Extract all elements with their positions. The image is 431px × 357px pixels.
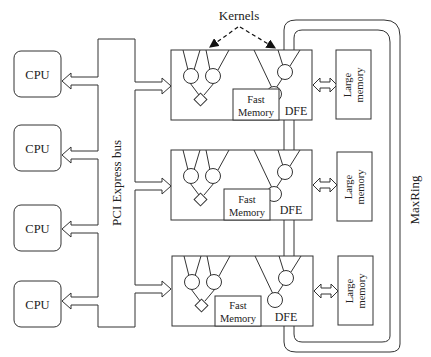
cpu-label: CPU (25, 68, 49, 82)
fast-memory-label: Memory (220, 313, 257, 324)
cpu-4: CPU (14, 281, 61, 327)
architecture-diagram: MaxRing PCI Express bus CPU CPU CPU CPU … (0, 0, 431, 357)
dfe-label: DFE (285, 104, 308, 118)
kernels-pointer-arrows (210, 27, 275, 48)
fast-memory-label: Memory (238, 107, 275, 118)
large-memory-label: Large (342, 73, 353, 98)
large-memory-1: Large memory (336, 50, 371, 119)
large-memory-label: Large (343, 175, 354, 200)
large-memory-label: memory (354, 67, 365, 103)
large-memory-3: Large memory (338, 256, 373, 325)
fast-memory-label: Fast (238, 194, 256, 205)
pci-bus-label: PCI Express bus (109, 140, 124, 226)
maxring-label: MaxRing (407, 175, 422, 225)
large-memory-label: memory (355, 169, 366, 205)
dfe-memory-links (313, 78, 338, 298)
kernels-label: Kernels (219, 8, 259, 23)
fast-memory-label: Fast (229, 300, 247, 311)
fast-memory-label: Fast (247, 94, 265, 105)
dfe-label: DFE (275, 310, 298, 324)
cpu-label: CPU (25, 222, 49, 236)
cpu-1: CPU (14, 51, 61, 97)
cpu-2: CPU (14, 125, 61, 171)
cpu-3: CPU (14, 205, 61, 251)
large-memory-label: memory (356, 273, 367, 309)
large-memory-label: Large (344, 279, 355, 304)
fast-memory-label: Memory (229, 207, 266, 218)
large-memory-2: Large memory (337, 152, 372, 221)
cpu-label: CPU (25, 142, 49, 156)
cpu-label: CPU (25, 298, 49, 312)
dfe-label: DFE (280, 203, 303, 217)
